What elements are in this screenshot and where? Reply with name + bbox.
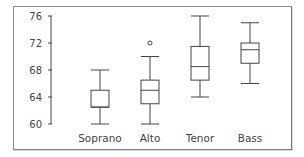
box-tenor (191, 16, 209, 97)
y-axis: 6064687276 (29, 11, 52, 130)
outlier-point (148, 41, 152, 45)
box-alto (141, 41, 159, 124)
iqr-box (141, 80, 159, 104)
y-tick-label: 60 (29, 119, 42, 130)
y-tick-label: 76 (29, 11, 42, 22)
iqr-box (241, 43, 259, 63)
x-category-label: Alto (140, 132, 161, 144)
x-category-label: Bass (238, 132, 263, 144)
y-tick-label: 72 (29, 38, 42, 49)
box-soprano (91, 70, 109, 124)
y-tick-label: 64 (29, 92, 42, 103)
iqr-box (91, 90, 109, 107)
x-axis-labels: SopranoAltoTenorBass (78, 132, 262, 144)
box-bass (241, 23, 259, 84)
box-plot-chart: 6064687276 SopranoAltoTenorBass (0, 0, 304, 157)
box-plots (91, 16, 259, 124)
iqr-box (191, 46, 209, 80)
y-tick-label: 68 (29, 65, 42, 76)
x-category-label: Soprano (78, 132, 122, 144)
x-category-label: Tenor (185, 132, 215, 144)
